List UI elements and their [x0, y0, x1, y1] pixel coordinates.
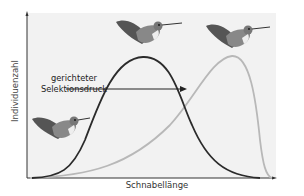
hummingbird-short-beak-icon	[32, 117, 90, 140]
arrow-head-icon	[180, 86, 187, 92]
y-axis-arrow-icon	[26, 11, 29, 16]
x-axis-label: Schnabellänge	[112, 180, 202, 190]
annotation-line-1: gerichteter	[38, 73, 110, 84]
x-axis-arrow-icon	[272, 177, 277, 180]
hummingbird-medium-beak-icon	[116, 20, 182, 44]
annotation-line-2: Selektionsdruck	[38, 84, 110, 95]
selection-annotation: gerichteter Selektionsdruck	[38, 73, 110, 95]
hummingbird-long-beak-icon	[206, 24, 270, 48]
y-axis-label: Individuenzahl	[10, 62, 22, 122]
selection-diagram	[0, 0, 304, 196]
